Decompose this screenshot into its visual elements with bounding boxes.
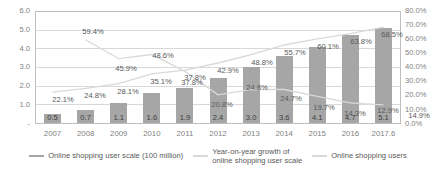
legend-label: Online shopping user scale (100 million) [48, 151, 183, 160]
y-left-tick: 3.0 [19, 63, 30, 71]
y-left-tick: 5.0 [19, 26, 30, 34]
y-left-tick: 2.0 [19, 82, 30, 90]
legend-swatch-icon [29, 155, 44, 157]
bar-value-label: 3.0 [246, 114, 257, 122]
x-axis-tick: 2012 [201, 127, 234, 140]
legend-item-users[interactable]: Online shopping users [312, 151, 407, 160]
y-right-tick: 80.0% [405, 7, 427, 15]
bar-value-label: 1.9 [180, 114, 191, 122]
y-axis-left: 6.0 5.0 4.0 3.0 2.0 1.0 - [0, 11, 34, 124]
y-right-tick: 30.0% [405, 77, 427, 85]
legend-item-growth[interactable]: Year-on-year growth of online shopping u… [193, 147, 302, 165]
y-left-tick: 1.0 [19, 101, 30, 109]
bar[interactable]: 4.1 [309, 47, 326, 124]
legend-swatch-icon [193, 155, 208, 157]
y-right-tick: 70.0% [405, 21, 427, 29]
bar[interactable]: 1.6 [143, 93, 160, 123]
bar-slot: 3.0 [235, 11, 268, 123]
bar-slot: 1.1 [102, 11, 135, 123]
legend-swatch-icon [312, 155, 327, 157]
bar-slot: 1.6 [135, 11, 168, 123]
x-axis-tick: 2009 [102, 127, 135, 140]
bar-slot: 0.5 [36, 11, 69, 123]
bar-value-label: 5.1 [378, 114, 389, 122]
y-axis-right: 80.0% 70.0% 60.0% 50.0% 40.0% 30.0% 20.0… [403, 11, 436, 124]
x-axis-tick: 2010 [135, 127, 168, 140]
bar-value-label: 1.1 [113, 114, 124, 122]
chart-container: 6.0 5.0 4.0 3.0 2.0 1.0 - 80.0% 70.0% 60… [0, 0, 436, 169]
legend-item-user-scale[interactable]: Online shopping user scale (100 million) [29, 151, 183, 160]
bar-value-label: 0.5 [47, 114, 58, 122]
bar[interactable]: 4.7 [342, 35, 359, 123]
y-left-tick: 4.0 [19, 45, 30, 53]
chart-legend: Online shopping user scale (100 million)… [0, 142, 436, 169]
bar-slot: 4.1 [301, 11, 334, 123]
bar-slot: 2.4 [201, 11, 234, 123]
bar-slot: 5.1 [367, 11, 400, 123]
bar[interactable]: 2.4 [210, 78, 227, 123]
bar[interactable]: 1.1 [110, 103, 127, 124]
bar[interactable]: 0.5 [44, 114, 61, 123]
bar[interactable]: 3.0 [243, 67, 260, 123]
y-left-tick: - [27, 120, 30, 128]
x-axis-tick: 2011 [168, 127, 201, 140]
bar[interactable]: 0.7 [77, 110, 94, 123]
y-right-tick: 50.0% [405, 49, 427, 57]
y-right-tick: 0.0% [405, 120, 422, 128]
bar-value-label: 4.1 [312, 114, 323, 122]
bar-value-label: 2.4 [213, 114, 224, 122]
y-right-tick: 40.0% [405, 63, 427, 71]
bar[interactable]: 1.9 [176, 88, 193, 124]
legend-label: Year-on-year growth of online shopping u… [212, 147, 302, 165]
bar[interactable]: 3.6 [276, 56, 293, 123]
x-axis: 2007 2008 2009 2010 2011 2012 2013 2014 … [36, 127, 400, 140]
bar-slot: 3.6 [268, 11, 301, 123]
bar-slot: 4.7 [334, 11, 367, 123]
y-left-tick: 6.0 [19, 7, 30, 15]
x-axis-tick: 2017.6 [367, 127, 400, 140]
x-axis-tick: 2015 [301, 127, 334, 140]
legend-label: Online shopping users [331, 151, 407, 160]
y-right-tick: 60.0% [405, 35, 427, 43]
bar-value-label: 1.6 [147, 114, 158, 122]
x-axis-tick: 2016 [334, 127, 367, 140]
bar-value-label: 0.7 [80, 114, 91, 122]
bar-slot: 1.9 [168, 11, 201, 123]
bar[interactable]: 5.1 [375, 28, 392, 123]
x-axis-tick: 2014 [268, 127, 301, 140]
bar-series: 0.5 0.7 1.1 1.6 1.9 2.4 [36, 11, 400, 123]
x-axis-tick: 2013 [235, 127, 268, 140]
bar-value-label: 4.7 [345, 114, 356, 122]
y-right-tick: 10.0% [405, 106, 427, 114]
x-axis-tick: 2008 [69, 127, 102, 140]
bar-value-label: 3.6 [279, 114, 290, 122]
y-right-tick: 20.0% [405, 91, 427, 99]
bar-slot: 0.7 [69, 11, 102, 123]
x-axis-tick: 2007 [36, 127, 69, 140]
